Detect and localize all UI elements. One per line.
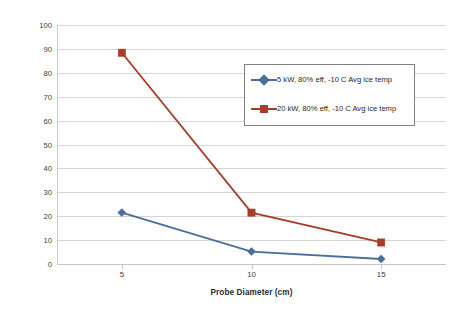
y-axis-tick-label: 40 [22, 164, 52, 173]
y-axis-tick-label: 90 [22, 44, 52, 53]
y-axis-tick-label: 50 [22, 140, 52, 149]
y-axis-line [57, 25, 58, 265]
legend: 5 kW, 80% eff, -10 C Avg ice temp 20 kW,… [244, 64, 415, 126]
legend-entry-series-1[interactable]: 20 kW, 80% eff, -10 C Avg ice temp [245, 102, 414, 116]
gridline [57, 145, 446, 146]
y-axis-tick-label: 70 [22, 92, 52, 101]
gridline [57, 49, 446, 50]
legend-key-icon-series-1 [251, 103, 277, 115]
y-axis-tick-label: 60 [22, 116, 52, 125]
x-axis-tick-label: 15 [361, 270, 401, 279]
plot-area [57, 25, 446, 264]
legend-key-icon-series-0 [251, 74, 277, 86]
chart-container: Descent Speed (m/hr) 0102030405060708090… [0, 0, 462, 313]
y-axis-tick-label: 30 [22, 188, 52, 197]
legend-entry-series-0[interactable]: 5 kW, 80% eff, -10 C Avg ice temp [245, 73, 414, 87]
x-axis-tick-label: 10 [232, 270, 272, 279]
gridline [57, 216, 446, 217]
x-axis-tick-mark [252, 264, 253, 269]
y-axis-tick-label: 100 [22, 21, 52, 30]
legend-label-series-0: 5 kW, 80% eff, -10 C Avg ice temp [277, 76, 392, 84]
gridline [57, 192, 446, 193]
gridline [57, 168, 446, 169]
x-axis-tick-mark [381, 264, 382, 269]
y-axis-tick-label: 80 [22, 68, 52, 77]
x-axis-tick-label: 5 [102, 270, 142, 279]
x-axis-tick-mark [122, 264, 123, 269]
y-axis-tick-label: 0 [22, 260, 52, 269]
gridline [57, 25, 446, 26]
gridline [57, 240, 446, 241]
legend-label-series-1: 20 kW, 80% eff, -10 C Avg ice temp [277, 105, 396, 113]
x-axis-title: Probe Diameter (cm) [57, 288, 446, 297]
y-axis-tick-label: 10 [22, 236, 52, 245]
y-axis-tick-label: 20 [22, 212, 52, 221]
x-axis-title-label: Probe Diameter (cm) [211, 288, 293, 297]
y-axis-tick-labels: 0102030405060708090100 [16, 25, 52, 264]
